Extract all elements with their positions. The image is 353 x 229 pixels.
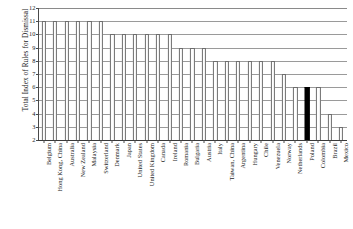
bar [339,127,343,140]
x-axis-labels: BelgiumHong Kong, ChinaAustraliaNew Zeal… [38,143,347,227]
bar [53,21,57,140]
bar [133,34,137,140]
bar-slot [130,8,141,140]
x-axis-label-slot: Norway [278,143,289,227]
x-axis-label-slot: Australia [61,143,72,227]
bar-slot [301,8,312,140]
bar-slot [164,8,175,140]
bar-slot [118,8,129,140]
x-axis-label-slot: Mexico [336,143,347,227]
bar-slot [49,8,60,140]
bar-slot [61,8,72,140]
bar-slot [152,8,163,140]
x-axis-label-slot: Denmark [107,143,118,227]
x-axis-label-slot: Venezuela [267,143,278,227]
x-axis-label-slot: Ireland [164,143,175,227]
x-axis-label-slot: Belgium [38,143,49,227]
bar-slot [95,8,106,140]
bar-slot [255,8,266,140]
bar-slot [324,8,335,140]
bar [179,48,183,140]
x-axis-label-slot: Japan [118,143,129,227]
x-axis-label-slot: Canada [152,143,163,227]
x-axis-label-slot: Switzerland [95,143,106,227]
bar [328,114,332,140]
plot-area: 23456789101112 [38,8,347,140]
bar [271,61,275,140]
bar-slot [84,8,95,140]
bar [65,21,69,140]
bar-slot [244,8,255,140]
x-axis-label-slot: United Kingdom [141,143,152,227]
x-axis-label-slot: Austria [198,143,209,227]
bar-slot [72,8,83,140]
bar [202,48,206,140]
bar [122,34,126,140]
x-axis-label-slot: Bulgaria [187,143,198,227]
y-tick-mark [36,140,39,141]
x-axis-label-slot: Poland [301,143,312,227]
x-axis-label-slot: United States [130,143,141,227]
bar-slot [267,8,278,140]
bar-slot [198,8,209,140]
bar-slot [313,8,324,140]
bar-slot [290,8,301,140]
bar-slot [210,8,221,140]
bar [213,61,217,140]
bar-slot [107,8,118,140]
x-axis-label-slot: Hungary [244,143,255,227]
bar [99,21,103,140]
x-axis-label-slot: Hong Kong, China [49,143,60,227]
bar [87,21,91,140]
bar-slot [233,8,244,140]
x-axis-label-slot: Colombia [313,143,324,227]
bar [42,21,46,140]
bar-slot [187,8,198,140]
bar-slot [38,8,49,140]
bar-chart: Total Index of Rules for Dismissal 23456… [0,0,353,229]
x-axis-label-slot: Romania [175,143,186,227]
bar [76,21,80,140]
bar [110,34,114,140]
bar [168,34,172,140]
bar [282,74,286,140]
bar [305,87,310,140]
x-axis-label-slot: Netherlands [290,143,301,227]
x-axis-label-slot: New Zealand [72,143,83,227]
x-axis-label-slot: Taiwan, China [221,143,232,227]
x-axis-label-slot: Italy [210,143,221,227]
bar [316,87,320,140]
bar [259,61,263,140]
bar [145,34,149,140]
bar-slot [221,8,232,140]
bar [236,61,240,140]
bar [293,87,297,140]
bar-slot [278,8,289,140]
bar [248,61,252,140]
y-axis-spine [38,8,39,140]
bar-slot [175,8,186,140]
bar [190,48,194,140]
bar [156,34,160,140]
bars-layer [38,8,347,140]
x-axis-label-slot: Brazil [324,143,335,227]
bar-slot [336,8,347,140]
bar [225,61,229,140]
x-axis-label-slot: Malaysia [84,143,95,227]
x-axis-label: Mexico [343,143,349,163]
bar-slot [141,8,152,140]
x-axis-label-slot: Argentina [233,143,244,227]
x-axis-label-slot: Chile [255,143,266,227]
